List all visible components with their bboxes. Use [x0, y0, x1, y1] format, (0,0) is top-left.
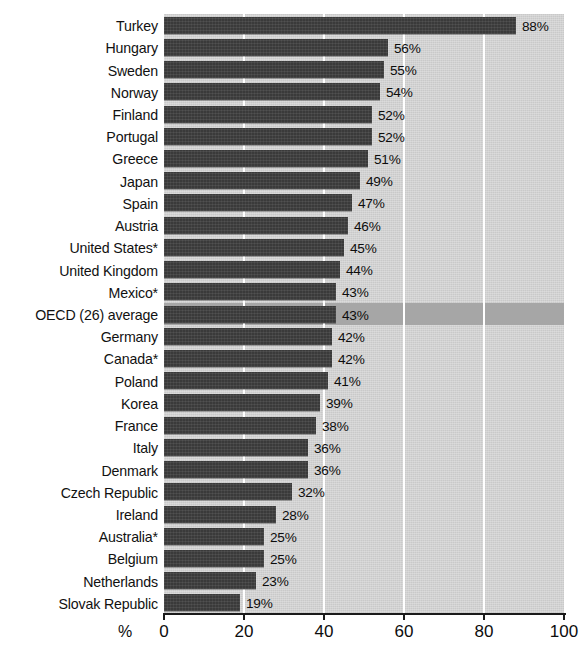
bar [164, 528, 264, 545]
x-axis-unit-label: % [118, 624, 132, 640]
bar-value-label: 25% [270, 531, 297, 545]
category-label: Poland [0, 375, 158, 389]
bar [164, 261, 340, 278]
category-label: Slovak Republic [0, 597, 158, 611]
axis-tick-60 [403, 613, 405, 620]
category-label: United Kingdom [0, 264, 158, 278]
category-label: Greece [0, 152, 158, 166]
axis-tick-label-0: 0 [159, 623, 168, 640]
bar [164, 461, 308, 478]
category-label: Italy [0, 441, 158, 455]
bar-value-label: 28% [282, 509, 309, 523]
bar [164, 417, 316, 434]
bar [164, 306, 336, 323]
bar-value-label: 45% [350, 242, 377, 256]
bar [164, 328, 332, 345]
bar [164, 550, 264, 567]
bar-value-label: 42% [338, 331, 365, 345]
bar [164, 594, 240, 611]
bar [164, 128, 372, 145]
bar-value-label: 23% [262, 575, 289, 589]
gridline-60 [403, 14, 405, 614]
bar [164, 283, 336, 300]
category-label: Sweden [0, 64, 158, 78]
category-label: Mexico* [0, 286, 158, 300]
bar-value-label: 36% [314, 464, 341, 478]
bar [164, 17, 516, 34]
category-label: Norway [0, 86, 158, 100]
bar-value-label: 46% [354, 220, 381, 234]
bar-value-label: 56% [394, 42, 421, 56]
x-axis-line [163, 613, 566, 615]
axis-tick-label-100: 100 [550, 623, 578, 640]
bar [164, 61, 384, 78]
bar [164, 83, 380, 100]
bar-value-label: 51% [374, 153, 401, 167]
bar-value-label: 52% [378, 109, 405, 123]
category-label: Spain [0, 197, 158, 211]
category-label-column: TurkeyHungarySwedenNorwayFinlandPortugal… [0, 14, 158, 614]
bar-value-label: 47% [358, 197, 385, 211]
bar-value-label: 88% [522, 20, 549, 34]
axis-tick-40 [323, 613, 325, 620]
bar-value-label: 44% [346, 264, 373, 278]
bar [164, 394, 320, 411]
bar-value-label: 41% [334, 375, 361, 389]
category-label: Australia* [0, 530, 158, 544]
axis-tick-label-40: 40 [315, 623, 334, 640]
bar [164, 150, 368, 167]
bar [164, 439, 308, 456]
category-label: Finland [0, 108, 158, 122]
bar-value-label: 54% [386, 86, 413, 100]
axis-tick-0 [163, 613, 165, 620]
axis-tick-label-60: 60 [395, 623, 414, 640]
bar [164, 372, 328, 389]
bar-value-label: 43% [342, 286, 369, 300]
axis-tick-label-20: 20 [235, 623, 254, 640]
category-label: Korea [0, 397, 158, 411]
bar [164, 194, 352, 211]
category-label: United States* [0, 241, 158, 255]
horizontal-bar-chart: TurkeyHungarySwedenNorwayFinlandPortugal… [0, 0, 579, 652]
bar-value-label: 19% [246, 597, 273, 611]
bar [164, 217, 348, 234]
category-label: Portugal [0, 130, 158, 144]
axis-tick-100 [563, 613, 565, 620]
bar [164, 572, 256, 589]
bar-value-label: 43% [342, 309, 369, 323]
bar-value-label: 32% [298, 486, 325, 500]
category-label: Ireland [0, 508, 158, 522]
category-label: OECD (26) average [0, 308, 158, 322]
bar-value-label: 36% [314, 442, 341, 456]
category-label: Turkey [0, 19, 158, 33]
category-label: Canada* [0, 352, 158, 366]
category-label: Hungary [0, 41, 158, 55]
bar [164, 483, 292, 500]
bar-value-label: 52% [378, 131, 405, 145]
category-label: Netherlands [0, 575, 158, 589]
bar [164, 39, 388, 56]
bar-value-label: 42% [338, 353, 365, 367]
category-label: Czech Republic [0, 486, 158, 500]
category-label: France [0, 419, 158, 433]
axis-tick-80 [483, 613, 485, 620]
category-label: Japan [0, 175, 158, 189]
category-label: Belgium [0, 552, 158, 566]
bar-value-label: 25% [270, 553, 297, 567]
axis-tick-label-80: 80 [475, 623, 494, 640]
bar-value-label: 55% [390, 64, 417, 78]
bar-value-label: 49% [366, 175, 393, 189]
bar [164, 172, 360, 189]
bar-value-label: 39% [326, 397, 353, 411]
gridline-80 [483, 14, 485, 614]
bar [164, 350, 332, 367]
category-label: Austria [0, 219, 158, 233]
plot-area: 88%56%55%54%52%52%51%49%47%46%45%44%43%4… [164, 14, 564, 614]
category-label: Denmark [0, 464, 158, 478]
bar [164, 506, 276, 523]
bar [164, 239, 344, 256]
category-label: Germany [0, 330, 158, 344]
bar [164, 106, 372, 123]
bar-value-label: 38% [322, 420, 349, 434]
axis-tick-20 [243, 613, 245, 620]
